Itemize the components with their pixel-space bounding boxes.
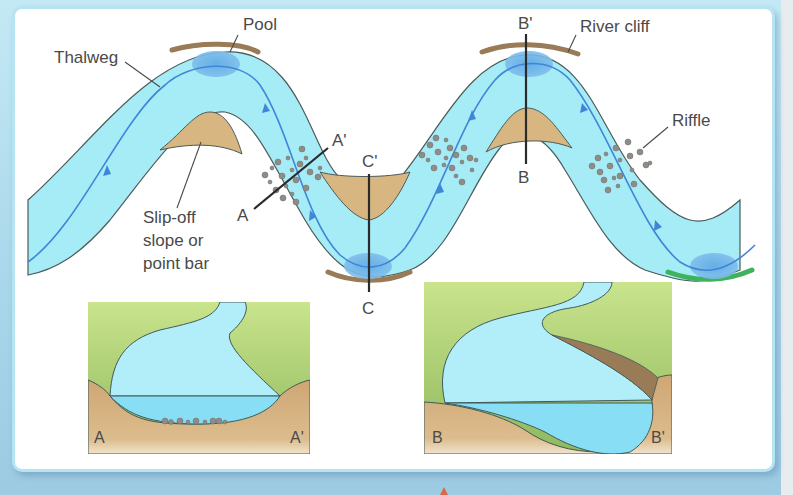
label-section-a: A — [237, 206, 249, 225]
label-section-b-prime: B' — [518, 14, 533, 33]
label-section-b: B — [518, 168, 529, 187]
label-river-cliff: River cliff — [580, 17, 650, 36]
label-section-c: C — [362, 299, 374, 318]
thalweg-leader — [125, 62, 160, 87]
label-pool: Pool — [243, 15, 277, 34]
inset-b-right-label: B' — [651, 429, 665, 446]
label-section-a-prime: A' — [332, 131, 347, 150]
inset-a — [88, 302, 310, 454]
inset-a-right-label: A' — [290, 429, 304, 446]
river-cliff-left — [172, 44, 258, 52]
label-slip-off-1: Slip-off — [143, 208, 196, 227]
label-thalweg: Thalweg — [54, 48, 118, 67]
page-marker-icon — [440, 487, 448, 495]
inset-a-left-label: A — [94, 429, 105, 446]
slip-off-leader — [177, 142, 201, 208]
pool-4 — [690, 253, 738, 279]
water-body — [28, 52, 740, 281]
river-channel — [28, 44, 755, 281]
label-section-c-prime: C' — [362, 152, 378, 171]
pool-1 — [192, 51, 240, 77]
label-slip-off-2: slope or — [143, 231, 204, 250]
riffle-leader — [643, 127, 668, 148]
label-slip-off-3: point bar — [143, 254, 209, 273]
inset-b-left-label: B — [432, 429, 443, 446]
label-riffle: Riffle — [672, 111, 710, 130]
inset-b — [424, 282, 672, 454]
meander-diagram: Thalweg Pool River cliff Riffle Slip-off… — [0, 0, 793, 495]
